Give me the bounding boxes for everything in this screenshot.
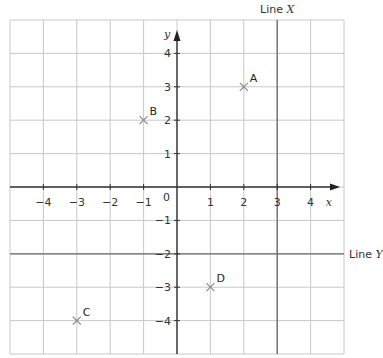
y-tick-label: 1 bbox=[164, 148, 171, 161]
line-labels: Line XLine Y bbox=[260, 3, 383, 261]
x-axis-arrow-icon bbox=[330, 184, 340, 191]
y-axis-arrow-icon bbox=[174, 30, 181, 41]
x-tick-label: −4 bbox=[35, 196, 51, 209]
point-label: C bbox=[83, 306, 91, 319]
x-axis-label: x bbox=[326, 196, 333, 209]
coordinate-grid: −4−3−2−112344321−1−2−3−40xy ABCD Line XL… bbox=[0, 0, 383, 358]
point-c: C bbox=[73, 306, 91, 325]
y-tick-label: −2 bbox=[155, 248, 171, 261]
y-tick-label: −4 bbox=[155, 315, 171, 328]
y-axis-label: y bbox=[163, 28, 171, 41]
x-tick-label: −1 bbox=[135, 196, 151, 209]
point-a: A bbox=[240, 72, 258, 91]
line-x-label: Line X bbox=[260, 3, 295, 16]
point-label: B bbox=[150, 105, 158, 118]
y-tick-label: −1 bbox=[155, 214, 171, 227]
x-tick-label: −2 bbox=[102, 196, 118, 209]
x-tick-label: 3 bbox=[274, 196, 281, 209]
axes bbox=[10, 30, 340, 354]
tick-labels: −4−3−2−112344321−1−2−3−40xy bbox=[35, 28, 333, 328]
y-tick-label: −3 bbox=[155, 281, 171, 294]
point-label: A bbox=[250, 72, 258, 85]
y-tick-label: 4 bbox=[164, 47, 171, 60]
point-label: D bbox=[216, 272, 224, 285]
y-tick-label: 3 bbox=[164, 81, 171, 94]
point-b: B bbox=[140, 105, 158, 124]
x-tick-label: 2 bbox=[240, 196, 247, 209]
line-y-label: Line Y bbox=[349, 248, 383, 261]
origin-label: 0 bbox=[163, 191, 170, 204]
point-d: D bbox=[206, 272, 224, 291]
x-tick-label: 4 bbox=[307, 196, 314, 209]
y-tick-label: 2 bbox=[164, 114, 171, 127]
x-tick-label: −3 bbox=[69, 196, 85, 209]
x-tick-label: 1 bbox=[207, 196, 214, 209]
